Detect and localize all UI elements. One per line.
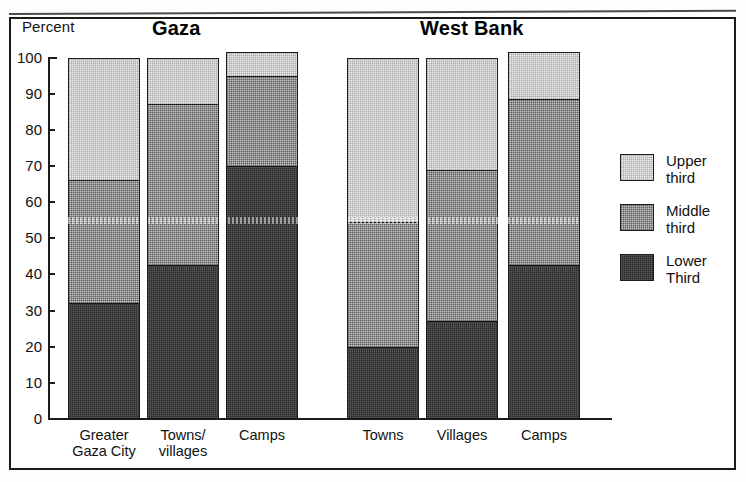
y-axis-tick-mark: [48, 165, 55, 167]
chart-legend: UpperthirdMiddlethirdLowerThird: [620, 152, 730, 302]
bar-segment-lower-third: [226, 166, 298, 419]
x-axis-category-label: Camps: [496, 427, 592, 443]
stacked-bar: [147, 58, 219, 420]
y-axis-tick-label: 0: [8, 410, 42, 427]
stacked-bar: [226, 52, 298, 419]
figure-page: Percent Gaza West Bank 10090807060504030…: [0, 0, 746, 482]
y-axis-tick-mark: [48, 201, 55, 203]
legend-label-upper: Upperthird: [666, 152, 707, 186]
bar-segment-middle-third: [226, 76, 298, 166]
y-axis-tick-label: 10: [8, 374, 42, 391]
legend-label-line1: Lower: [666, 252, 707, 269]
legend-item-middle: Middlethird: [620, 202, 730, 246]
legend-label-line1: Upper: [666, 152, 707, 169]
y-axis-tick-label: 70: [8, 157, 42, 174]
legend-label-line2: third: [666, 219, 710, 236]
chart-plot-area: Percent Gaza West Bank 10090807060504030…: [0, 0, 746, 482]
legend-item-upper: Upperthird: [620, 152, 730, 196]
x-axis-category-label-line: Camps: [214, 427, 310, 443]
bar-segment-upper-third: [508, 52, 580, 99]
group-title-west-bank: West Bank: [420, 17, 524, 40]
y-axis-tick-label: 20: [8, 338, 42, 355]
y-axis-tick-label: 60: [8, 193, 42, 210]
legend-label-line2: Third: [666, 269, 707, 286]
bar-segment-lower-third: [508, 265, 580, 419]
y-axis-tick-label: 40: [8, 265, 42, 282]
bar-segment-lower-third: [68, 303, 140, 419]
bar-segment-middle-third: [347, 222, 419, 347]
y-axis-tick-mark: [48, 273, 55, 275]
x-axis-category-label-line: villages: [135, 443, 231, 459]
bar-segment-upper-third: [68, 58, 140, 181]
bar-segment-upper-third: [147, 58, 219, 105]
stacked-bar: [426, 58, 498, 420]
legend-label-line2: third: [666, 169, 707, 186]
legend-label-lower: LowerThird: [666, 252, 707, 286]
legend-swatch-middle: [620, 204, 654, 231]
y-axis-tick-mark: [48, 237, 55, 239]
stacked-bar: [68, 58, 140, 420]
y-axis-tick-label: 80: [8, 121, 42, 138]
y-axis-cap-top: [48, 57, 57, 59]
bar-segment-upper-third: [426, 58, 498, 170]
bar-segment-lower-third: [347, 347, 419, 419]
x-axis-category-label: Camps: [214, 427, 310, 443]
bar-segment-lower-third: [147, 265, 219, 419]
legend-swatch-lower: [620, 254, 654, 281]
y-axis-tick-mark: [48, 382, 55, 384]
y-axis-tick-mark: [48, 129, 55, 131]
bar-segment-middle-third: [508, 99, 580, 265]
y-axis-tick-mark: [48, 310, 55, 312]
legend-label-middle: Middlethird: [666, 202, 710, 236]
x-axis-category-label-line: Camps: [496, 427, 592, 443]
y-axis-tick-label: 100: [8, 49, 42, 66]
legend-item-lower: LowerThird: [620, 252, 730, 296]
y-axis-tick-label: 90: [8, 85, 42, 102]
group-title-gaza: Gaza: [152, 17, 201, 40]
bar-segment-middle-third: [426, 170, 498, 322]
bar-segment-upper-third: [347, 58, 419, 222]
y-axis-tick-label: 50: [8, 229, 42, 246]
y-axis-tick-label: 30: [8, 302, 42, 319]
stacked-bar: [347, 58, 419, 420]
legend-swatch-upper: [620, 154, 654, 181]
y-axis-tick-mark: [48, 346, 55, 348]
y-axis-tick-mark: [48, 93, 55, 95]
y-axis-title: Percent: [22, 18, 74, 35]
bar-segment-upper-third: [226, 52, 298, 75]
legend-label-line1: Middle: [666, 202, 710, 219]
bar-segment-middle-third: [68, 180, 140, 303]
stacked-bar: [508, 52, 580, 419]
bar-segment-middle-third: [147, 104, 219, 265]
bar-segment-lower-third: [426, 321, 498, 419]
